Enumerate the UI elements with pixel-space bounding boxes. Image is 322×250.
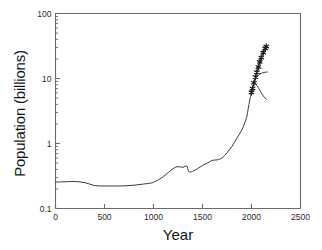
plot-area: 0.111010005001000150020002500 bbox=[0, 0, 322, 250]
axes-frame bbox=[56, 14, 301, 209]
data-markers bbox=[249, 44, 268, 95]
x-tick-label: 1000 bbox=[144, 212, 163, 222]
data-series bbox=[56, 47, 268, 186]
y-tick-label: 0.1 bbox=[40, 204, 52, 214]
x-tick-label: 0 bbox=[53, 212, 58, 222]
x-tick-label: 500 bbox=[97, 212, 111, 222]
y-tick-label: 1 bbox=[47, 139, 52, 149]
y-tick-label: 10 bbox=[42, 74, 52, 84]
axis-ticks bbox=[56, 14, 301, 209]
axis-tick-labels: 0.111010005001000150020002500 bbox=[37, 9, 310, 223]
y-tick-label: 100 bbox=[37, 9, 51, 19]
x-axis-label: Year bbox=[55, 226, 301, 243]
y-axis-label: Population (billions) bbox=[11, 9, 28, 219]
asterisk-marker bbox=[256, 64, 261, 69]
series-line-historical-population bbox=[56, 92, 252, 186]
asterisk-marker bbox=[252, 80, 257, 85]
x-tick-label: 1500 bbox=[193, 212, 212, 222]
x-tick-label: 2000 bbox=[242, 212, 261, 222]
population-chart-figure: Population (billions) Year 0.11101000500… bbox=[0, 0, 322, 250]
x-tick-label: 2500 bbox=[291, 212, 310, 222]
